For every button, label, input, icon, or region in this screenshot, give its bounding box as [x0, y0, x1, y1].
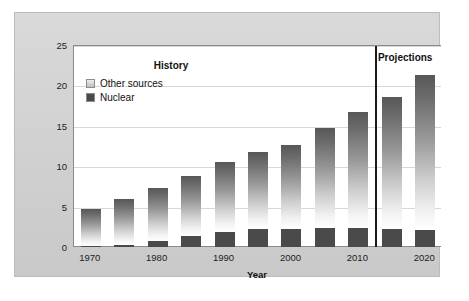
- bar-segment-nuclear: [148, 241, 168, 247]
- x-tick-label: 1990: [213, 252, 234, 263]
- bar-segment-nuclear: [248, 229, 268, 247]
- bar-2005: [315, 128, 335, 247]
- y-axis-title-wrapper: Trillion kilowatt-hours: [39, 45, 61, 247]
- bar-segment-other-sources: [248, 152, 268, 229]
- bar-series-group: [74, 46, 441, 247]
- bar-segment-other-sources: [415, 75, 435, 230]
- bar-segment-nuclear: [315, 228, 335, 247]
- y-tick-label: 25: [45, 40, 67, 51]
- nuclear-swatch-icon: [86, 93, 95, 102]
- bar-segment-other-sources: [114, 199, 134, 245]
- bar-segment-nuclear: [114, 245, 134, 247]
- y-tick-label: 5: [45, 201, 67, 212]
- y-tick-label: 15: [45, 120, 67, 131]
- bar-segment-other-sources: [315, 128, 335, 228]
- bar-segment-nuclear: [382, 229, 402, 247]
- bar-1975: [114, 199, 134, 247]
- chart-frame: Trillion kilowatt-hours History Projecti…: [14, 12, 440, 277]
- bar-2000: [281, 145, 301, 247]
- bar-segment-nuclear: [281, 229, 301, 247]
- bar-segment-other-sources: [148, 188, 168, 241]
- bar-segment-nuclear: [215, 232, 235, 247]
- legend-label-nuclear: Nuclear: [100, 92, 134, 103]
- annotation-projections: Projections: [378, 52, 432, 63]
- bar-segment-other-sources: [81, 209, 101, 246]
- plot-area: History Projections Other sources Nuclea…: [73, 45, 441, 247]
- bar-1985: [181, 176, 201, 247]
- bar-segment-other-sources: [215, 162, 235, 231]
- x-tick-label: 1980: [146, 252, 167, 263]
- bar-segment-nuclear: [81, 246, 101, 247]
- y-tick-label: 0: [45, 242, 67, 253]
- x-tick-label: 2000: [280, 252, 301, 263]
- bar-2015: [382, 97, 402, 247]
- legend-item-other-sources: Other sources: [86, 78, 163, 89]
- bar-segment-nuclear: [181, 236, 201, 247]
- bar-1970: [81, 209, 101, 247]
- bar-1995: [248, 152, 268, 247]
- x-tick-label: 2020: [414, 252, 435, 263]
- legend-item-nuclear: Nuclear: [86, 92, 163, 103]
- y-tick-label: 10: [45, 161, 67, 172]
- other-sources-swatch-icon: [86, 79, 95, 88]
- bar-segment-other-sources: [382, 97, 402, 230]
- history-projection-divider: [375, 46, 377, 247]
- bar-1980: [148, 188, 168, 247]
- bar-2010: [348, 112, 368, 247]
- bar-2020: [415, 75, 435, 247]
- chart-figure: Trillion kilowatt-hours History Projecti…: [0, 0, 469, 301]
- bar-segment-nuclear: [415, 230, 435, 247]
- x-tick-label: 1970: [79, 252, 100, 263]
- y-tick-label: 20: [45, 80, 67, 91]
- bar-segment-nuclear: [348, 228, 368, 247]
- x-tick-label: 2010: [347, 252, 368, 263]
- bar-1990: [215, 162, 235, 247]
- chart-legend: Other sources Nuclear: [86, 78, 163, 106]
- legend-label-other-sources: Other sources: [100, 78, 163, 89]
- bar-segment-other-sources: [281, 145, 301, 229]
- x-axis-title: Year: [247, 269, 267, 280]
- bar-segment-other-sources: [348, 112, 368, 228]
- bar-segment-other-sources: [181, 176, 201, 236]
- annotation-history: History: [154, 60, 188, 71]
